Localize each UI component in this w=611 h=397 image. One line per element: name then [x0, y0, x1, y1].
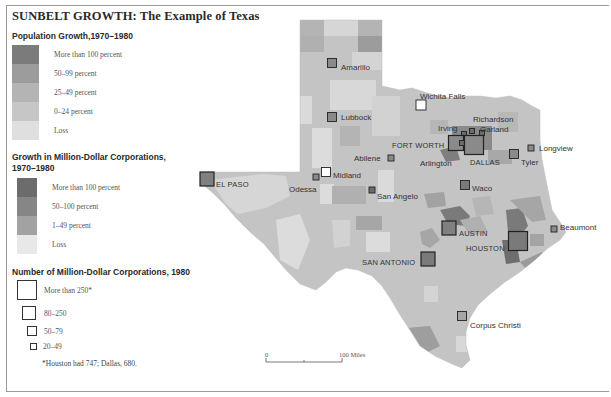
- city-marker-dallas: [465, 136, 484, 155]
- texas-map: AmarilloLubbockWichita FallsRichardsonIr…: [0, 0, 611, 397]
- scale-bar: 0 100 Miles: [265, 351, 366, 362]
- city-label-midland: Midland: [333, 171, 361, 180]
- city-label-arlington: Arlington: [420, 159, 452, 168]
- city-marker-waco: [461, 181, 470, 190]
- city-label-longview: Longview: [539, 144, 573, 153]
- city-marker-el-paso: [200, 172, 214, 186]
- city-marker-san-antonio: [421, 252, 435, 266]
- city-marker-arlington: [460, 141, 465, 146]
- city-label-beaumont: Beaumont: [560, 223, 597, 232]
- city-label-dallas: DALLAS: [470, 158, 500, 167]
- city-marker-wichita-falls: [416, 100, 426, 110]
- city-marker-odessa: [313, 174, 319, 180]
- city-label-lubbock: Lubbock: [341, 113, 372, 122]
- city-label-wichita-falls: Wichita Falls: [420, 92, 465, 101]
- city-marker-amarillo: [328, 59, 337, 68]
- city-label-waco: Waco: [472, 184, 493, 193]
- city-marker-lubbock: [328, 113, 337, 122]
- city-label-richardson: Richardson: [473, 115, 513, 124]
- city-marker-beaumont: [551, 226, 557, 232]
- city-label-abilene: Abilene: [354, 154, 381, 163]
- city-marker-houston: [509, 232, 528, 251]
- city-label-austin: AUSTIN: [459, 229, 488, 238]
- city-label-corpus-christi: Corpus Christi: [470, 321, 521, 330]
- city-marker-tyler: [510, 150, 519, 159]
- city-marker-longview: [528, 145, 534, 151]
- city-label-garland: Garland: [480, 125, 508, 134]
- city-label-tyler: Tyler: [521, 158, 539, 167]
- city-marker-austin: [442, 221, 456, 235]
- city-label-odessa: Odessa: [289, 185, 317, 194]
- city-marker-midland: [322, 168, 331, 177]
- city-marker-san-angelo: [369, 187, 375, 193]
- city-label-houston: HOUSTON: [466, 244, 505, 253]
- scale-end-label: 100 Miles: [339, 351, 366, 358]
- city-label-san-angelo: San Angelo: [377, 192, 418, 201]
- city-label-fort-worth: FORT WORTH: [392, 141, 444, 150]
- city-marker-corpus-christi: [458, 312, 467, 321]
- city-label-irving: Irving: [438, 124, 458, 133]
- city-marker-richardson: [470, 129, 475, 134]
- scale-start-label: 0: [265, 351, 268, 358]
- city-marker-abilene: [388, 155, 394, 161]
- city-label-amarillo: Amarillo: [341, 63, 370, 72]
- city-label-el-paso: EL PASO: [216, 180, 249, 189]
- city-label-san-antonio: SAN ANTONIO: [362, 258, 415, 267]
